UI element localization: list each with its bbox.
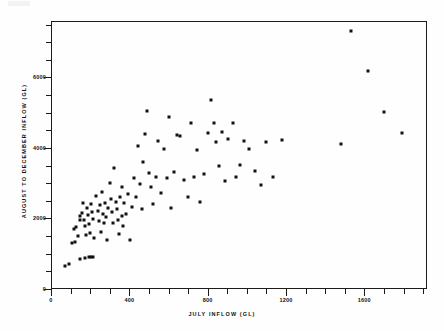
y-axis-minor-tick bbox=[46, 113, 51, 114]
y-axis-minor-tick bbox=[46, 25, 51, 26]
y-axis-tick-label: 4000 bbox=[12, 145, 46, 151]
x-axis-minor-tick bbox=[110, 289, 111, 294]
y-axis-minor-tick bbox=[46, 236, 51, 237]
scatter-plot-figure: 0200040006000040080012001600 AUGUST TO D… bbox=[0, 0, 444, 331]
y-axis-minor-tick bbox=[46, 183, 51, 184]
x-axis-minor-tick bbox=[169, 289, 170, 294]
x-axis-major-tick bbox=[51, 289, 52, 296]
y-axis-minor-tick bbox=[46, 130, 51, 131]
x-axis-major-tick bbox=[364, 289, 365, 296]
x-axis-minor-tick bbox=[149, 289, 150, 294]
x-axis-minor-tick bbox=[266, 289, 267, 294]
y-axis-minor-tick bbox=[46, 254, 51, 255]
y-axis-minor-tick bbox=[46, 95, 51, 96]
x-axis-minor-tick bbox=[90, 289, 91, 294]
y-axis-tick-label: 0 bbox=[12, 286, 46, 292]
x-axis-minor-tick bbox=[404, 289, 405, 294]
y-axis-tick-label: 2000 bbox=[12, 215, 46, 221]
y-axis-minor-tick bbox=[46, 42, 51, 43]
y-axis-title: AUGUST TO DECEMBER INFLOW (GL) bbox=[21, 51, 27, 251]
x-axis-minor-tick bbox=[325, 289, 326, 294]
y-axis-tick-label: 6000 bbox=[12, 74, 46, 80]
y-axis-minor-tick bbox=[46, 60, 51, 61]
x-axis-tick-label: 800 bbox=[188, 297, 228, 303]
y-axis-minor-tick bbox=[46, 271, 51, 272]
plot-frame bbox=[51, 21, 427, 289]
x-axis-tick-label: 1200 bbox=[266, 297, 306, 303]
scan-artifact bbox=[8, 1, 30, 6]
y-axis-minor-tick bbox=[46, 201, 51, 202]
x-axis-minor-tick bbox=[188, 289, 189, 294]
x-axis-minor-tick bbox=[306, 289, 307, 294]
x-axis-minor-tick bbox=[247, 289, 248, 294]
x-axis-minor-tick bbox=[227, 289, 228, 294]
x-axis-major-tick bbox=[286, 289, 287, 296]
x-axis-title: JULY INFLOW (GL) bbox=[0, 311, 444, 317]
x-axis-tick-label: 400 bbox=[109, 297, 149, 303]
x-axis-minor-tick bbox=[71, 289, 72, 294]
y-axis-minor-tick bbox=[46, 166, 51, 167]
x-axis-tick-label: 1600 bbox=[344, 297, 384, 303]
x-axis-minor-tick bbox=[423, 289, 424, 294]
x-axis-minor-tick bbox=[345, 289, 346, 294]
x-axis-minor-tick bbox=[384, 289, 385, 294]
x-axis-major-tick bbox=[208, 289, 209, 296]
x-axis-tick-label: 0 bbox=[31, 297, 71, 303]
x-axis-major-tick bbox=[129, 289, 130, 296]
